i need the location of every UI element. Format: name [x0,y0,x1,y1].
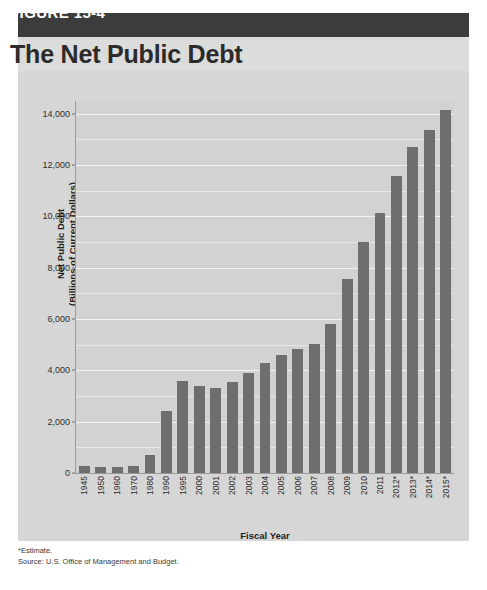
estimate-note: *Estimate. [18,545,179,556]
y-axis-tick-label: 14,000 [42,109,70,119]
x-axis-tick-label: 2007 [309,476,319,495]
x-axis-tick-label: 1960 [112,476,122,495]
x-axis-tick-label: 2001 [211,476,221,495]
x-axis-tick-label: 1950 [96,476,106,495]
gridline-major [76,165,454,166]
x-axis-tick-label: 1970 [129,476,139,495]
x-axis-tick-label: 2015* [441,476,451,498]
x-axis-tick-label: 2000 [194,476,204,495]
bar-2012-est [391,176,402,473]
bar-1995 [177,381,188,473]
x-axis-tick-label: 2014* [424,476,434,498]
bar-2001 [210,388,221,473]
bar-2011 [375,213,386,473]
bar-1945 [79,466,90,473]
x-axis-tick-label: 2008 [326,476,336,495]
y-axis-line [75,101,76,473]
plot-area [76,101,454,473]
gridline-major [76,114,454,115]
bar-2014-est [424,130,435,473]
x-axis-tick-label: 2006 [293,476,303,495]
y-axis-tick-label: 2,000 [47,417,70,427]
figure-number-label: FIGURE 15-4 [10,4,105,21]
bar-2003 [243,373,254,473]
figure-container: FIGURE 15-4 The Net Public Debt 02,0004,… [0,0,487,590]
x-axis-line [76,473,454,474]
bar-2004 [260,363,271,473]
bar-2008 [325,324,336,473]
x-axis-tick-label: 2010 [359,476,369,495]
x-axis-tick-label: 2002 [227,476,237,495]
bar-2007 [309,344,320,473]
bar-2009 [342,279,353,473]
bar-1980 [145,455,156,473]
x-axis-tick-label: 2009 [342,476,352,495]
x-axis-tick-label: 1980 [145,476,155,495]
x-axis-tick-label: 2011 [375,476,385,494]
bar-2013-est [407,147,418,473]
bar-2006 [292,349,303,473]
x-axis-tick-label: 1945 [79,476,89,495]
gridline-minor [76,139,454,140]
bar-2005 [276,355,287,473]
x-axis-tick-label: 2012* [391,476,401,498]
bar-2002 [227,382,238,473]
bar-1990 [161,411,172,473]
bar-2010 [358,242,369,473]
bar-1970 [128,466,139,473]
x-axis-tick-label: 1990 [161,476,171,495]
x-axis-tick-label: 2003 [244,476,254,495]
y-axis-title-line1: Net Public Debt [55,209,66,279]
figure-footnotes: *Estimate. Source: U.S. Office of Manage… [18,545,179,567]
x-axis-tick-label: 2013* [408,476,418,498]
x-axis-tick-label: 2005 [276,476,286,495]
bar-2015-est [440,110,451,473]
bar-1950 [95,467,106,473]
bar-2000 [194,386,205,473]
x-axis-ticks: 1945195019601970198019901995200020012002… [76,476,454,530]
page-title: The Net Public Debt [10,40,242,69]
bar-1960 [112,467,123,473]
source-note: Source: U.S. Office of Management and Bu… [18,556,179,567]
y-axis-tick-label: 0 [65,468,70,478]
x-axis-tick-label: 2004 [260,476,270,495]
x-axis-tick-label: 1995 [178,476,188,495]
y-axis-tick-label: 4,000 [47,365,70,375]
x-axis-title: Fiscal Year [76,530,454,541]
